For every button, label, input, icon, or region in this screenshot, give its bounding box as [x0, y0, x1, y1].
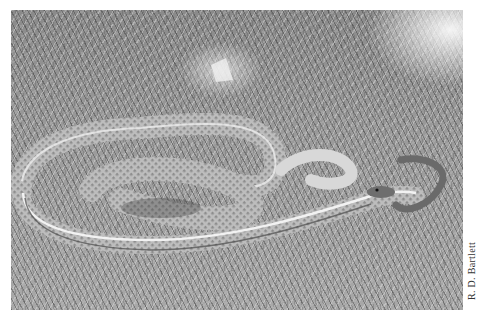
snake-photograph: [11, 10, 463, 310]
snake-head: [367, 186, 395, 198]
snake-tail-loop: [281, 155, 352, 184]
snake-illustration: [11, 10, 463, 310]
snake-eye: [375, 188, 378, 191]
photo-credit: R. D. Bartlett: [466, 242, 477, 300]
